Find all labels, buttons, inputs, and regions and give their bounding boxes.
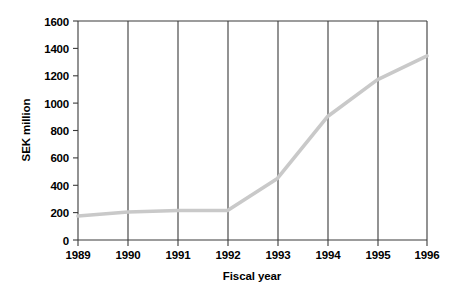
y-tick-label-200: 200 <box>50 207 69 219</box>
x-tick-label-1993: 1993 <box>266 249 291 261</box>
x-tick-label-1994: 1994 <box>316 249 342 261</box>
y-tick-label-0: 0 <box>63 235 69 247</box>
x-tick-label-1990: 1990 <box>116 249 141 261</box>
x-tick-label-1992: 1992 <box>216 249 241 261</box>
y-tick-label-1200: 1200 <box>44 70 69 82</box>
line-chart: 1600 1400 1200 1000 800 600 400 200 0 19… <box>0 0 463 291</box>
x-tick-label-1991: 1991 <box>166 249 192 261</box>
chart-canvas: 1600 1400 1200 1000 800 600 400 200 0 19… <box>0 0 463 291</box>
x-tick-label-1995: 1995 <box>366 249 392 261</box>
x-tick-label-1996: 1996 <box>415 249 440 261</box>
y-tick-label-600: 600 <box>50 152 69 164</box>
x-axis-title: Fiscal year <box>223 270 282 282</box>
y-tick-label-400: 400 <box>50 180 69 192</box>
y-axis-title: SEK million <box>20 99 32 162</box>
y-tick-label-1400: 1400 <box>44 43 69 55</box>
x-tick-label-1989: 1989 <box>66 249 91 261</box>
y-tick-label-800: 800 <box>50 125 69 137</box>
chart-background <box>0 0 463 291</box>
y-tick-label-1600: 1600 <box>44 16 69 28</box>
y-tick-label-1000: 1000 <box>44 98 69 110</box>
